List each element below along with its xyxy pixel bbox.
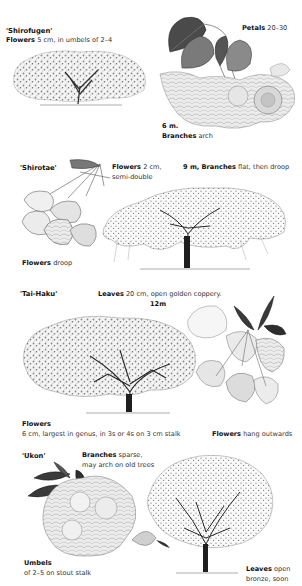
label-taihaku-leaves: Leaves 20 cm, open golden coppery. xyxy=(98,290,222,299)
shirotae-spreading-tree-icon xyxy=(100,180,290,272)
label-shirofugen-branches: Branches arch xyxy=(162,132,213,141)
label-ukon-umbels-detail: of 2–5 on stout stalk xyxy=(24,569,91,578)
field-guide-page: 'Shirofugen' Flowers 5 cm, in umbels of … xyxy=(0,0,302,586)
cultivar-name-taihaku: 'Tai-Haku' xyxy=(20,290,57,298)
label-shirotae-branches: 9 m, Branches flat, then droop xyxy=(183,163,289,172)
label-shirofugen-flowers: Flowers 5 cm, in umbels of 2–4 xyxy=(6,36,112,45)
ukon-upright-tree-icon xyxy=(140,452,280,576)
label-ukon-leaves: Leaves open xyxy=(246,565,290,574)
label-shirotae-semi-double: semi-double xyxy=(112,173,153,182)
label-taihaku-flowers: Flowers xyxy=(22,420,51,429)
label-taihaku-flowers-hang: Flowers hang outwards xyxy=(212,430,292,439)
label-shirofugen-height: 6 m. xyxy=(162,122,178,131)
cultivar-name-shirofugen: 'Shirofugen' xyxy=(6,27,52,35)
label-shirotae-flowers-droop: Flowers droop xyxy=(22,259,72,268)
label-ukon-branches-arch: may arch on old trees xyxy=(82,461,154,470)
label-taihaku-flower-detail: 6 cm, largest in genus, in 3s or 4s on 3… xyxy=(22,430,181,439)
cultivar-name-ukon: 'Ukon' xyxy=(22,452,46,460)
label-ukon-umbels: Umbels xyxy=(24,559,52,568)
cultivar-name-shirotae: 'Shirotae' xyxy=(20,164,57,172)
shirotae-flower-cluster-icon xyxy=(20,160,110,250)
taihaku-rounded-tree-icon xyxy=(20,312,200,416)
label-ukon-branches: Branches sparse, xyxy=(82,451,142,460)
label-ukon-leaves-bronze: bronze, soon xyxy=(246,575,288,584)
label-shirotae-flowers: Flowers 2 cm, xyxy=(112,163,162,172)
label-taihaku-height: 12m xyxy=(150,300,166,309)
label-shirofugen-petals: Petals 20–30 xyxy=(242,24,287,33)
taihaku-flower-spray-icon xyxy=(186,296,300,416)
shirofugen-tree-icon xyxy=(10,48,150,106)
